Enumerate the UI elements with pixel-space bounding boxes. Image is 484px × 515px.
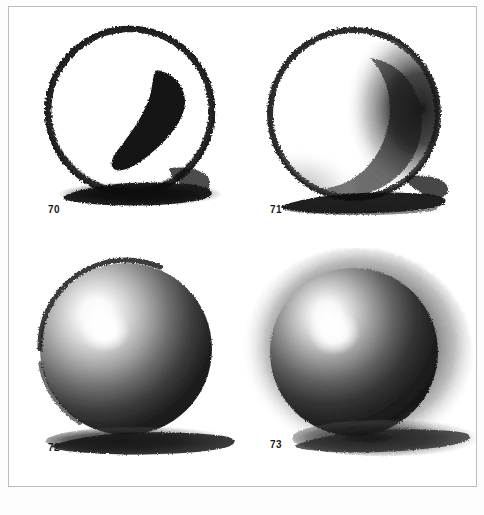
figure-73-cast-shadow: [292, 420, 476, 456]
figure-73-caption: 73: [270, 440, 282, 450]
figure-72-caption: 72: [48, 443, 60, 453]
plate-page: 70: [0, 0, 484, 515]
figure-70-core-shadow: [112, 70, 185, 170]
figure-73-highlight: [308, 309, 360, 355]
figure-70: [20, 18, 242, 223]
figure-72-cast-shadow: [46, 427, 242, 455]
figure-71-caption: 71: [270, 205, 282, 215]
figure-71-drawing: [242, 18, 472, 223]
figure-72-highlight: [80, 310, 130, 352]
figure-70-drawing: [20, 18, 242, 223]
figure-70-caption: 70: [48, 205, 60, 215]
figure-71: [242, 18, 472, 223]
